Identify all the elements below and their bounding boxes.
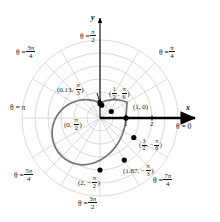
x-axis-label: x bbox=[186, 104, 190, 112]
point-label-2-neg-pi-2: (2, −π2) bbox=[78, 175, 100, 189]
theta-label-pi-over-2: θ =π2 bbox=[80, 28, 96, 43]
x-tick-2: 2 bbox=[150, 121, 154, 128]
point-label-half-pi-6: (12, π6) bbox=[109, 86, 130, 100]
data-point-3half-neg-pi-6 bbox=[131, 135, 136, 140]
y-axis-label: y bbox=[91, 14, 95, 22]
theta-label-pi: θ = π bbox=[10, 104, 25, 112]
theta-label-5pi-over-4: θ =5π4 bbox=[14, 167, 34, 182]
point-label-1-0: (1, 0) bbox=[133, 104, 148, 111]
data-point-half-pi-6 bbox=[109, 109, 114, 114]
point-label-1-87-neg-pi-3: (1.87, −π3) bbox=[123, 163, 154, 177]
data-point-1-87-neg-pi-3 bbox=[122, 158, 127, 163]
data-point-0-pi-2 bbox=[97, 101, 102, 106]
data-points bbox=[97, 101, 136, 173]
theta-label-3pi-over-4: θ =3π4 bbox=[16, 44, 36, 59]
point-label-3half-neg-pi-6: (32, −π6) bbox=[139, 139, 162, 152]
theta-label-3pi-over-2: θ =3π2 bbox=[78, 195, 98, 210]
theta-label-pi-over-4: θ =π4 bbox=[159, 44, 175, 59]
point-label-0-pi-2: (0, π2) bbox=[64, 117, 82, 131]
theta-label-zero: θ = 0 bbox=[176, 123, 191, 131]
point-label-0-13-pi-3: (0.13, π3) bbox=[57, 82, 84, 96]
x-tick-1: 1 bbox=[124, 121, 128, 128]
theta-label-7pi-over-4: θ =7π4 bbox=[153, 172, 173, 187]
data-point-2-neg-pi-2 bbox=[97, 167, 102, 172]
